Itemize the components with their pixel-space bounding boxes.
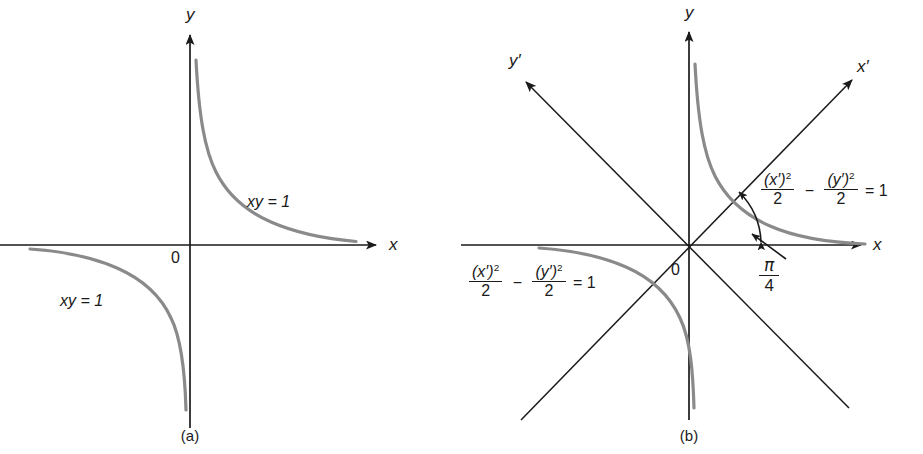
- panel-b-equation-upper-operator: −: [799, 183, 820, 199]
- panel-a-curve-branch-upper: [196, 60, 356, 242]
- panel-b-angle-numerator: π: [759, 257, 779, 276]
- panel-b-equation-upper-term2-numerator: (y′): [827, 171, 849, 188]
- panel-b-plot: [461, 0, 923, 454]
- panel-a-origin-label: 0: [171, 250, 180, 266]
- panel-b-angle-label: π 4: [759, 258, 779, 295]
- panel-b-equation-upper-rhs: = 1: [862, 183, 888, 199]
- panel-b-equation-lower-term1-exponent: 2: [494, 262, 500, 273]
- panel-b-angle-denominator: 4: [759, 276, 779, 294]
- panel-b-x-prime-axis-label: x′: [857, 58, 869, 75]
- panel-b-equation-upper-term2: (y′)2 2: [824, 172, 857, 207]
- panel-a-y-axis-label: y: [186, 6, 195, 23]
- panel-b-equation-upper-term1-numerator: (x′): [764, 171, 786, 188]
- panel-b-equation-lower-term1: (x′)2 2: [469, 264, 502, 299]
- panel-a-plot: [0, 0, 461, 454]
- panel-b-equation-upper-term1-exponent: 2: [786, 170, 792, 181]
- figure-root: y x 0 xy = 1 xy = 1 (a): [0, 0, 923, 454]
- panel-b-equation-upper-term2-denominator: 2: [824, 190, 857, 207]
- panel-a-lower-branch-equation-text: xy = 1: [60, 292, 103, 309]
- panel-a-upper-branch-equation-text: xy = 1: [247, 193, 290, 210]
- panel-b-y-prime-axis-label: y′: [509, 52, 521, 69]
- panel-b-equation-lower-term2: (y′)2 2: [532, 264, 565, 299]
- panel-b-equation-lower-term2-numerator: (y′): [535, 263, 557, 280]
- panel-b-equation-lower: (x′)2 2 − (y′)2 2 = 1: [469, 265, 596, 300]
- panel-b-equation-upper-term2-exponent: 2: [849, 170, 855, 181]
- panel-a-upper-branch-equation: xy = 1: [247, 194, 290, 210]
- panel-b-equation-upper-term1-denominator: 2: [761, 190, 794, 207]
- panel-b-equation-lower-operator: −: [507, 275, 528, 291]
- panel-a-lower-branch-equation: xy = 1: [60, 293, 103, 309]
- panel-b-origin-label: 0: [671, 262, 680, 278]
- panel-b-equation-upper-term1: (x′)2 2: [761, 172, 794, 207]
- panel-b-equation-lower-term2-exponent: 2: [557, 262, 563, 273]
- panel-b-equation-lower-term1-denominator: 2: [469, 282, 502, 299]
- panel-a: y x 0 xy = 1 xy = 1 (a): [0, 0, 461, 454]
- panel-b-caption: (b): [659, 428, 719, 443]
- panel-a-caption: (a): [160, 428, 220, 443]
- panel-b-angle-fraction: π 4: [759, 257, 779, 294]
- panel-b-equation-lower-term2-denominator: 2: [532, 282, 565, 299]
- panel-b-y-axis-label: y: [685, 4, 694, 21]
- panel-b-equation-lower-term1-numerator: (x′): [472, 263, 494, 280]
- panel-b-x-axis-label: x: [873, 236, 882, 253]
- panel-b-equation-lower-rhs: = 1: [570, 275, 596, 291]
- panel-a-curve-branch-lower: [30, 249, 186, 410]
- panel-b: y x x′ y′ 0 π 4 (x′)2 2 − (y′)2 2: [461, 0, 923, 454]
- panel-a-x-axis-label: x: [389, 236, 398, 253]
- panel-b-equation-upper: (x′)2 2 − (y′)2 2 = 1: [761, 173, 888, 208]
